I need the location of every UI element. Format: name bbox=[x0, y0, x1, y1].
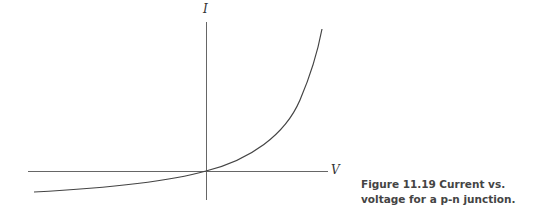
caption-number: Figure 11.19 bbox=[361, 178, 436, 190]
x-axis-label: V bbox=[331, 163, 340, 177]
figure-caption: Figure 11.19 Current vs. voltage for a p… bbox=[361, 177, 546, 207]
iv-curve bbox=[34, 29, 322, 192]
y-axis-label: I bbox=[203, 2, 208, 16]
